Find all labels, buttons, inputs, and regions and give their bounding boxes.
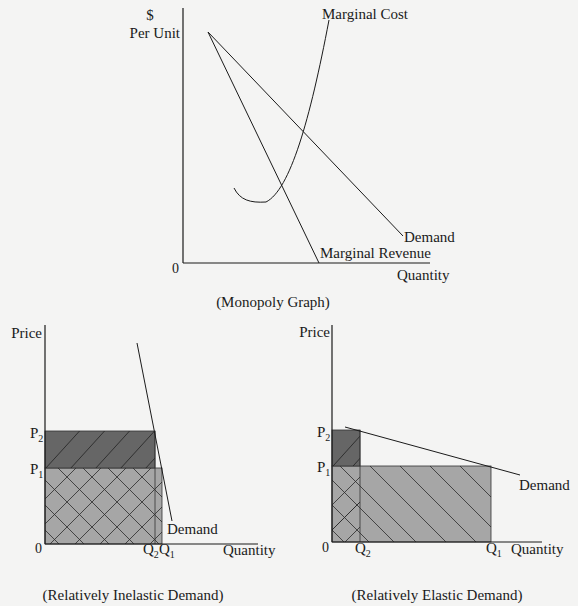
elastic-p2-label: P2 <box>317 424 330 443</box>
elastic-p1-label: P1 <box>317 459 330 478</box>
economics-diagram: $ Per Unit Marginal Cost Demand Marginal… <box>0 0 578 606</box>
elastic-demand-graph: Price P2 P1 0 Q2 Q1 Demand Quantity (Rel… <box>299 324 570 604</box>
inelastic-x-label: Quantity <box>223 542 276 558</box>
monopoly-caption: (Monopoly Graph) <box>216 294 330 311</box>
marginal-cost-label: Marginal Cost <box>322 6 409 22</box>
elastic-q1-label: Q1 <box>486 540 502 559</box>
elastic-caption: (Relatively Elastic Demand) <box>352 587 523 604</box>
inelastic-demand-graph: Price P2 P1 0 Q2 Q1 Demand Quantity (Rel… <box>0 325 276 604</box>
inelastic-p2-label: P2 <box>30 425 43 444</box>
elastic-q2-label: Q2 <box>355 540 371 559</box>
inelastic-caption: (Relatively Inelastic Demand) <box>43 587 224 604</box>
inelastic-y-label: Price <box>11 325 42 341</box>
elastic-y-label: Price <box>299 324 330 340</box>
elastic-origin-label: 0 <box>322 540 329 555</box>
monopoly-marginal-revenue-curve <box>208 32 319 263</box>
monopoly-demand-label: Demand <box>404 229 455 245</box>
inelastic-origin-label: 0 <box>35 541 42 556</box>
monopoly-demand-curve <box>208 32 403 236</box>
marginal-revenue-label: Marginal Revenue <box>320 245 431 261</box>
inelastic-p1-label: P1 <box>30 461 43 480</box>
monopoly-graph: $ Per Unit Marginal Cost Demand Marginal… <box>130 6 456 311</box>
monopoly-y-label-per-unit: Per Unit <box>130 25 181 41</box>
monopoly-marginal-cost-curve <box>234 20 329 202</box>
monopoly-x-label: Quantity <box>397 267 450 283</box>
elastic-p2-revenue-area <box>332 430 360 466</box>
elastic-demand-label: Demand <box>519 477 570 493</box>
elastic-x-label: Quantity <box>511 541 564 557</box>
monopoly-origin-label: 0 <box>172 261 179 276</box>
inelastic-demand-label: Demand <box>167 521 218 537</box>
monopoly-y-label-dollar: $ <box>146 7 154 23</box>
